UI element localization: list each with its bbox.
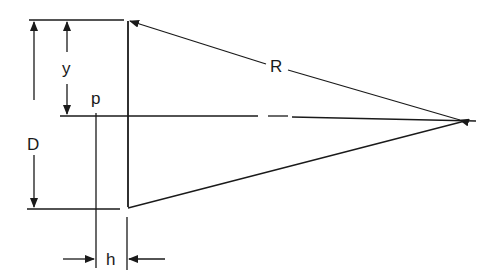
label-y: y [62, 59, 71, 78]
label-d: D [27, 135, 39, 154]
center-axis-line-right [292, 117, 476, 121]
label-p: p [91, 89, 100, 108]
radius-line-left [130, 21, 266, 64]
geometry-diagram: D y p R h [0, 0, 504, 279]
radius-line-right [288, 70, 460, 120]
label-h: h [106, 250, 115, 269]
label-r: R [270, 57, 282, 76]
lower-cone-line [128, 121, 465, 208]
